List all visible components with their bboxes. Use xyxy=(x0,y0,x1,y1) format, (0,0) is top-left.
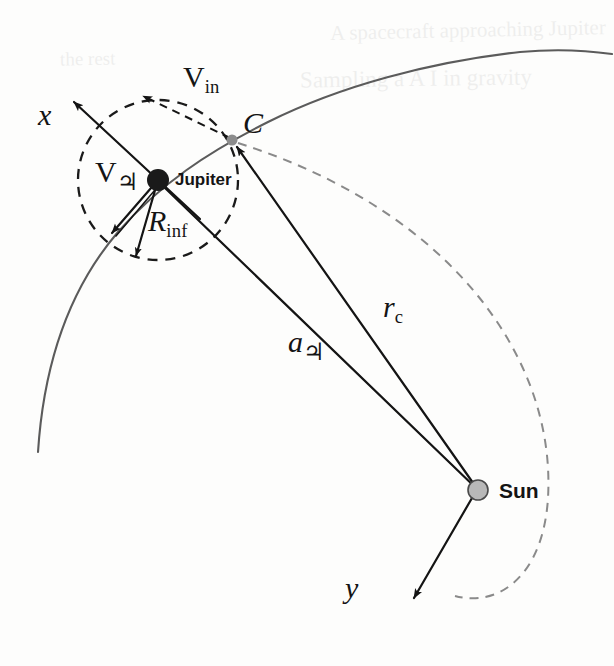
r-c-line xyxy=(237,147,478,490)
r-c-subscript: c xyxy=(395,306,403,327)
r-c-label: rc xyxy=(383,292,403,326)
x-axis-label: x xyxy=(38,100,51,130)
v-in-label: Vin xyxy=(183,62,220,96)
jupiter-gravity-assist-diagram: A spacecraft approaching Jupiter Samplin… xyxy=(0,0,614,666)
a-jupiter-label: a♃ xyxy=(288,327,325,364)
r-c-base: r xyxy=(383,290,395,323)
point-c-label: C xyxy=(243,108,263,138)
point-c-marker xyxy=(227,135,238,146)
r-inf-subscript: inf xyxy=(166,220,187,241)
jupiter-marker xyxy=(147,169,169,191)
jupiter-symbol-icon: ♃ xyxy=(117,168,139,196)
r-inf-label: Rinf xyxy=(148,206,188,240)
y-axis-line xyxy=(414,498,472,598)
jupiter-symbol-icon-2: ♃ xyxy=(303,338,325,366)
sun-label: Sun xyxy=(499,480,539,501)
r-inf-base: R xyxy=(148,204,166,237)
y-axis-label: y xyxy=(345,573,358,603)
a-jupiter-base: a xyxy=(288,325,303,358)
v-jupiter-label: V♃ xyxy=(95,157,138,194)
sun-marker xyxy=(468,480,488,500)
v-in-base: V xyxy=(183,60,205,93)
v-in-vector xyxy=(143,96,230,138)
jupiter-orbit-curve xyxy=(38,50,612,452)
v-in-subscript: in xyxy=(205,76,220,97)
v-jupiter-base: V xyxy=(95,155,117,188)
jupiter-label: Jupiter xyxy=(175,171,232,188)
